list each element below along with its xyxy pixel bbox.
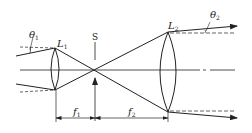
f1-label: f1 [72, 106, 81, 118]
theta2-mark [205, 22, 210, 33]
optics-diagram: θ1 L1 S L2 θ2 f1 f2 [0, 0, 252, 133]
incoming-rays [16, 47, 55, 92]
converging-rays [55, 32, 168, 112]
f2-label: f2 [127, 106, 136, 118]
lens-l2 [160, 32, 176, 112]
lens2-label: L2 [167, 20, 179, 32]
outgoing-rays [168, 26, 237, 118]
stop-label: S [92, 32, 98, 42]
theta2-label: θ2 [210, 9, 220, 21]
lens-l1 [51, 48, 59, 90]
lens1-label: L1 [56, 38, 67, 50]
theta1-label: θ1 [29, 29, 39, 41]
